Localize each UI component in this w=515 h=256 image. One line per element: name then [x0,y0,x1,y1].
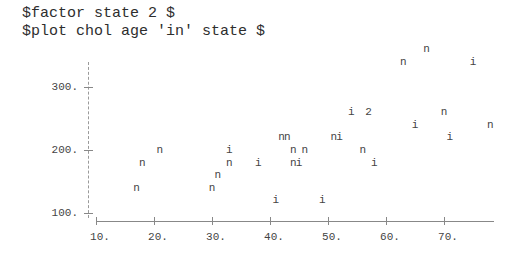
data-point-i: i [371,157,378,169]
x-tick-label: 40. [264,231,284,243]
command-line-factor: $factor state 2 $ [22,5,175,22]
x-tick-label: 20. [148,231,168,243]
data-point-i: i [470,56,477,68]
data-point-n: n [226,157,233,169]
data-point-overlap: 2 [365,106,372,118]
data-point-n: n [400,56,407,68]
y-tick [84,213,93,214]
data-point-n: n [423,43,430,55]
x-tick [328,217,329,225]
y-tick [84,87,93,88]
data-point-n: n [133,182,140,194]
data-point-i: i [255,157,262,169]
data-point-i: i [272,194,279,206]
data-point-n: n [139,157,146,169]
x-tick [154,217,155,225]
data-point-n: n [284,131,291,143]
x-tick [96,217,97,225]
x-tick-label: 60. [380,231,400,243]
data-point-i: i [226,144,233,156]
data-point-i: i [348,106,355,118]
data-point-n: n [156,144,163,156]
data-point-i: i [336,131,343,143]
command-line-plot: $plot chol age 'in' state $ [22,23,265,40]
y-tick-label: 100. [28,207,78,219]
data-point-n: n [290,144,297,156]
x-axis [96,221,494,222]
data-point-i: i [446,131,453,143]
data-point-n: n [301,144,308,156]
x-tick [270,217,271,225]
data-point-n: n [487,119,494,131]
y-tick-label: 200. [28,144,78,156]
x-tick [212,217,213,225]
x-tick-label: 10. [90,231,110,243]
x-tick-label: 30. [206,231,226,243]
data-point-n: n [214,169,221,181]
x-tick-label: 50. [322,231,342,243]
data-point-n: n [209,182,216,194]
y-axis [88,62,89,218]
x-tick-label: 70. [438,231,458,243]
x-tick [386,217,387,225]
data-point-i: i [412,119,419,131]
y-tick [84,150,93,151]
data-point-i: i [319,194,326,206]
data-point-n: n [441,106,448,118]
x-tick [444,217,445,225]
data-point-n: n [359,144,366,156]
y-tick-label: 300. [28,81,78,93]
data-point-i: i [296,157,303,169]
